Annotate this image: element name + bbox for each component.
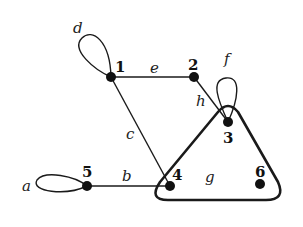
loop-d [79,35,111,77]
loop-a [36,175,87,192]
node-5 [82,181,92,191]
edge-label-d: d [73,19,83,37]
hypergraph-diagram: 1 2 3 4 5 6 a b c d e f g h [0,0,303,227]
node-label-5: 5 [82,163,92,181]
edge-c [111,77,170,186]
edge-label-g: g [205,168,215,186]
node-3 [223,117,233,127]
edge-label-h: h [196,92,206,110]
node-label-6: 6 [255,163,265,181]
edge-label-f: f [223,50,232,68]
edge-label-b: b [122,167,132,185]
loop-f [217,78,237,122]
node-label-2: 2 [188,56,198,74]
edge-label-c: c [126,125,135,143]
node-label-4: 4 [172,166,182,184]
node-label-1: 1 [115,58,125,76]
node-label-3: 3 [223,129,233,147]
edge-label-e: e [150,59,159,77]
edge-label-a: a [22,177,31,195]
